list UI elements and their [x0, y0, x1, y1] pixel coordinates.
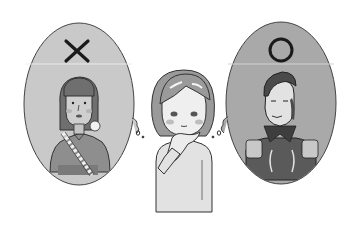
right-thought-dots	[212, 131, 221, 138]
illustration: × ○	[0, 0, 356, 226]
left-thought-bubble	[24, 23, 139, 185]
right-thought-bubble	[221, 22, 336, 184]
thinking-woman	[152, 70, 215, 212]
